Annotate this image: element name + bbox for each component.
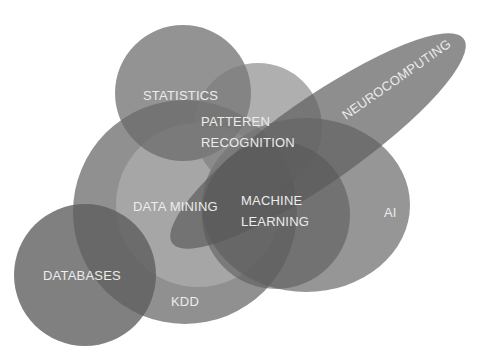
statistics-label: STATISTICS (143, 88, 218, 103)
machine-learning-label-1: MACHINE (241, 193, 302, 208)
ai-label: AI (384, 205, 397, 220)
pattern-recognition-label-2: RECOGNITION (201, 135, 295, 150)
machine-learning-label-2: LEARNING (241, 214, 309, 229)
kdd-label: KDD (171, 294, 199, 309)
databases-label: DATABASES (43, 268, 121, 283)
data-mining-label: DATA MINING (133, 199, 218, 214)
pattern-recognition-label-1: PATTEREN (201, 114, 270, 129)
venn-diagram: STATISTICS PATTEREN RECOGNITION NEUROCOM… (0, 0, 494, 361)
